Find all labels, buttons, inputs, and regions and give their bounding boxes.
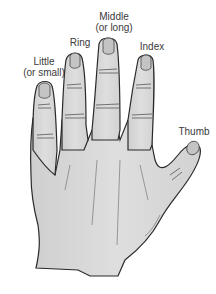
index-fingernail xyxy=(141,55,151,70)
label-little-line1: Little xyxy=(20,56,68,67)
label-little-line2: (or small) xyxy=(20,67,68,78)
label-ring-line1: Ring xyxy=(66,37,94,48)
hand-illustration xyxy=(0,0,216,294)
label-index-finger: Index xyxy=(136,41,168,52)
label-middle-line2: (or long) xyxy=(92,22,136,33)
label-middle-finger: Middle (or long) xyxy=(92,11,136,33)
label-ring-finger: Ring xyxy=(66,37,94,48)
label-index-line1: Index xyxy=(136,41,168,52)
label-thumb: Thumb xyxy=(176,126,212,137)
little-fingernail xyxy=(39,83,50,98)
label-thumb-line1: Thumb xyxy=(176,126,212,137)
label-little-finger: Little (or small) xyxy=(20,56,68,78)
hand-diagram: Little (or small) Ring Middle (or long) … xyxy=(0,0,216,294)
middle-fingernail xyxy=(103,38,114,54)
label-middle-line1: Middle xyxy=(92,11,136,22)
ring-fingernail xyxy=(70,53,80,68)
index-finger xyxy=(128,55,154,150)
